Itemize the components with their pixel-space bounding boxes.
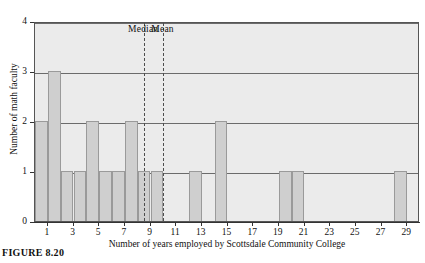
- x-tick-29: [406, 222, 407, 226]
- x-tick-5: [98, 222, 99, 226]
- bar: [99, 171, 112, 221]
- x-tick-label-11: 11: [163, 227, 187, 237]
- x-tick-label-13: 13: [189, 227, 213, 237]
- x-tick-label-15: 15: [215, 227, 239, 237]
- x-tick-19: [278, 222, 279, 226]
- x-tick-label-21: 21: [292, 227, 316, 237]
- x-tick-label-7: 7: [112, 227, 136, 237]
- y-tick-label-4: 4: [7, 16, 27, 26]
- x-tick-3: [73, 222, 74, 226]
- bar: [74, 171, 87, 221]
- x-tick-9: [150, 222, 151, 226]
- bar: [394, 171, 407, 221]
- bar: [112, 171, 125, 221]
- plot-area: [34, 22, 419, 222]
- y-tick-label-1: 1: [7, 166, 27, 176]
- bar: [125, 121, 138, 221]
- bar: [35, 121, 48, 221]
- x-tick-21: [304, 222, 305, 226]
- bar: [61, 171, 74, 221]
- gridline-y-4: [35, 23, 418, 24]
- x-tick-label-23: 23: [317, 227, 341, 237]
- gridline-y-3: [35, 73, 418, 74]
- x-tick-17: [252, 222, 253, 226]
- figure-caption: FIGURE 8.20: [2, 247, 64, 258]
- x-tick-13: [201, 222, 202, 226]
- y-tick-label-3: 3: [7, 66, 27, 76]
- x-tick-25: [355, 222, 356, 226]
- bar: [86, 121, 99, 221]
- x-tick-label-27: 27: [369, 227, 393, 237]
- figure-container: Number of math faculty 01234 MedianMean …: [0, 0, 425, 263]
- y-axis-title: Number of math faculty: [9, 29, 19, 189]
- x-axis-title: Number of years employed by Scottsdale C…: [34, 239, 420, 249]
- x-tick-11: [175, 222, 176, 226]
- x-tick-label-25: 25: [343, 227, 367, 237]
- median-line: [144, 23, 145, 221]
- x-tick-15: [227, 222, 228, 226]
- y-tick-label-0: 0: [7, 216, 27, 226]
- x-tick-label-3: 3: [61, 227, 85, 237]
- x-tick-label-5: 5: [86, 227, 110, 237]
- bar: [189, 171, 202, 221]
- x-tick-label-29: 29: [394, 227, 418, 237]
- bar: [292, 171, 305, 221]
- bar: [215, 121, 228, 221]
- mean-line: [163, 23, 164, 221]
- bar: [48, 71, 61, 221]
- x-tick-label-17: 17: [240, 227, 264, 237]
- bar: [279, 171, 292, 221]
- x-tick-23: [329, 222, 330, 226]
- x-tick-1: [47, 222, 48, 226]
- x-tick-7: [124, 222, 125, 226]
- bar: [151, 171, 164, 221]
- x-tick-label-1: 1: [35, 227, 59, 237]
- x-tick-27: [381, 222, 382, 226]
- mean-label: Mean: [151, 24, 173, 34]
- y-tick-label-2: 2: [7, 116, 27, 126]
- x-tick-label-9: 9: [138, 227, 162, 237]
- x-tick-label-19: 19: [266, 227, 290, 237]
